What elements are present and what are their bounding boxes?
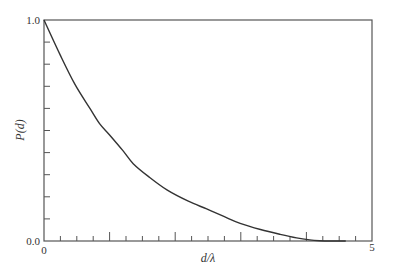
data-line [44,20,346,241]
plot-frame [44,20,372,241]
y-tick-label-top: 1.0 [26,14,40,26]
y-axis-ticks [44,42,50,219]
y-axis-title: P(d) [13,119,27,141]
x-tick-label-left: 0 [41,244,47,256]
y-tick-label-bottom: 0.0 [26,235,40,247]
x-axis-title: d/λ [201,251,216,265]
x-tick-label-right: 5 [369,241,375,253]
chart: 1.0 0.0 0 5 d/λ P(d) [0,0,393,274]
